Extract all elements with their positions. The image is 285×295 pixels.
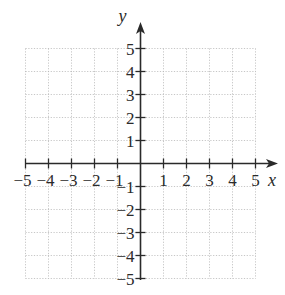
y-tick-label: −2 [116, 201, 134, 220]
y-tick-label: −4 [116, 247, 135, 266]
y-tick-label: 3 [126, 86, 135, 105]
x-axis-label: x [267, 170, 276, 190]
y-axis-label: y [117, 6, 127, 26]
x-tick-label: −5 [13, 171, 31, 190]
x-tick-label: 3 [205, 171, 214, 190]
y-tick-label: 4 [126, 63, 135, 82]
x-tick-label: 1 [159, 171, 168, 190]
y-tick-label: −5 [116, 270, 134, 289]
x-tick-label: 2 [182, 171, 191, 190]
y-tick-label: −3 [116, 224, 134, 243]
axes [26, 22, 278, 280]
coordinate-plane: −5−4−3−2−112345−5−4−3−2−112345 x y [0, 0, 285, 295]
y-tick-label: 5 [126, 40, 135, 59]
x-tick-label: −4 [36, 171, 55, 190]
x-tick-label: −3 [59, 171, 77, 190]
y-tick-label: −1 [116, 178, 134, 197]
y-tick-label: 2 [126, 109, 135, 128]
x-tick-label: 4 [228, 171, 237, 190]
x-tick-label: −2 [82, 171, 100, 190]
y-tick-label: 1 [126, 132, 135, 151]
x-tick-label: 5 [251, 171, 260, 190]
